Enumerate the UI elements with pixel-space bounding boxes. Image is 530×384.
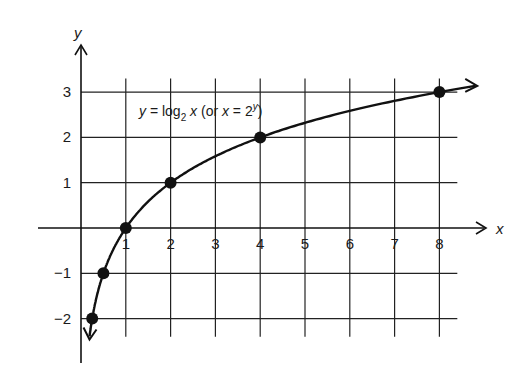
x-tick-labels: 12345678 <box>122 235 444 252</box>
equation-annotation: y = log2 x (or x = 2y) <box>138 101 262 123</box>
eq-open: (or <box>197 103 222 119</box>
x-tick-label: 5 <box>301 235 309 252</box>
x-tick-label: 8 <box>435 235 443 252</box>
eq-log: = log <box>146 103 181 119</box>
eq-close: ) <box>258 103 263 119</box>
x-tick-label: 1 <box>122 235 130 252</box>
x-tick-label: 7 <box>390 235 398 252</box>
y-tick-label: 1 <box>63 174 71 191</box>
data-point <box>86 313 98 325</box>
y-tick-label: 3 <box>63 83 71 100</box>
eq-rest-eq: = 2 <box>229 103 253 119</box>
data-point <box>97 267 109 279</box>
x-tick-label: 3 <box>211 235 219 252</box>
x-tick-label: 4 <box>256 235 264 252</box>
y-tick-labels: 321−1−2 <box>54 83 71 327</box>
x-axis-label: x <box>495 220 504 237</box>
data-point <box>120 222 132 234</box>
data-point <box>254 131 266 143</box>
grid-lines <box>81 79 457 337</box>
data-point <box>433 86 445 98</box>
x-tick-label: 6 <box>346 235 354 252</box>
y-tick-label: −1 <box>54 264 71 281</box>
curve-path <box>90 86 476 337</box>
y-tick-label: 2 <box>63 128 71 145</box>
y-tick-label: −2 <box>54 310 71 327</box>
data-point <box>165 177 177 189</box>
y-axis-label: y <box>73 24 83 41</box>
x-tick-label: 2 <box>166 235 174 252</box>
log2-chart: 12345678 321−1−2 x y y = log2 x (or x = … <box>0 0 530 384</box>
